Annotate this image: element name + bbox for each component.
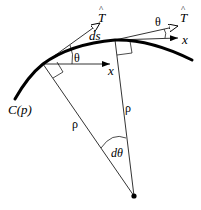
- x-label-1: x: [107, 63, 114, 78]
- right-angle-marker-2: [117, 41, 132, 55]
- radius-label-1: ρ: [72, 117, 78, 131]
- ds-label: ds: [89, 28, 101, 43]
- theta-label-2: θ: [155, 15, 161, 29]
- dtheta-label: dθ: [111, 146, 123, 160]
- theta-arc-2: [164, 29, 166, 38]
- curvature-diagram: T ^ ds θ x θ T ^ x C(p) ρ ρ dθ: [0, 0, 201, 210]
- curve-label: C(p): [8, 102, 32, 117]
- center-point: [131, 193, 136, 198]
- theta-label-1: θ: [74, 51, 80, 65]
- x-label-2: x: [181, 32, 188, 47]
- radius-label-2: ρ: [125, 101, 131, 115]
- curve: [15, 40, 192, 99]
